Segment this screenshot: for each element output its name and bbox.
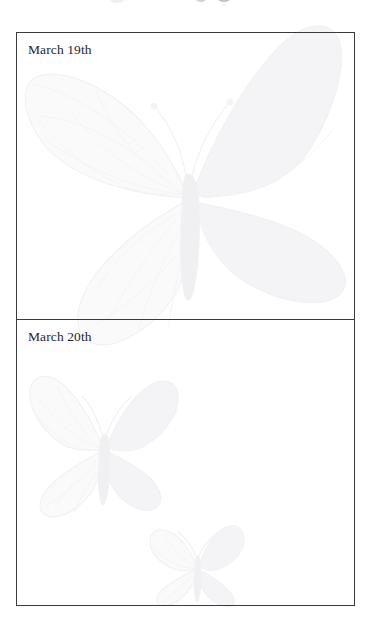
table-row[interactable]: March 20th xyxy=(17,320,354,605)
table-row[interactable]: March 19th xyxy=(17,33,354,320)
entry-area-march-19[interactable] xyxy=(17,63,354,319)
bleed-mark xyxy=(196,0,206,2)
entry-area-march-20[interactable] xyxy=(17,350,354,605)
document-page: March 19th March 20th xyxy=(0,0,376,640)
bleed-mark xyxy=(218,0,230,2)
bleed-mark xyxy=(110,0,124,3)
date-log-table: March 19th March 20th xyxy=(16,32,355,606)
date-label-march-19: March 19th xyxy=(28,42,92,59)
date-label-march-20: March 20th xyxy=(28,329,92,346)
